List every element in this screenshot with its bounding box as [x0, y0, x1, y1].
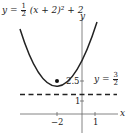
- equation-label: y = 1 2 (x + 2)² + 2: [2, 3, 83, 18]
- parabola-diagram: y = 1 2 (x + 2)² + 2 y x y = 3 2 2.5 1 −…: [0, 0, 132, 133]
- y-axis-label: y: [80, 12, 85, 21]
- parabola-curve: [20, 22, 97, 86]
- y-tick-label-1: 1: [75, 97, 80, 106]
- plot-area: [0, 0, 132, 133]
- x-tick-label-1: 1: [93, 118, 98, 127]
- equation-fraction: 1 2: [21, 3, 25, 18]
- fraction-numerator: 3: [113, 72, 117, 79]
- x-axis-label: x: [120, 109, 125, 118]
- y-tick-label-2-5: 2.5: [66, 77, 80, 86]
- fraction-denominator: 2: [113, 80, 117, 87]
- directrix-fraction: 3 2: [113, 72, 117, 87]
- directrix-lhs: y =: [94, 74, 110, 84]
- x-tick-label-neg2: −2: [51, 118, 64, 127]
- fraction-numerator: 1: [21, 3, 25, 10]
- focus-point: [55, 79, 59, 83]
- directrix-label: y = 3 2: [94, 72, 119, 87]
- equation-rhs: (x + 2)² + 2: [30, 5, 84, 15]
- fraction-denominator: 2: [21, 11, 25, 18]
- equation-lhs: y =: [2, 5, 18, 15]
